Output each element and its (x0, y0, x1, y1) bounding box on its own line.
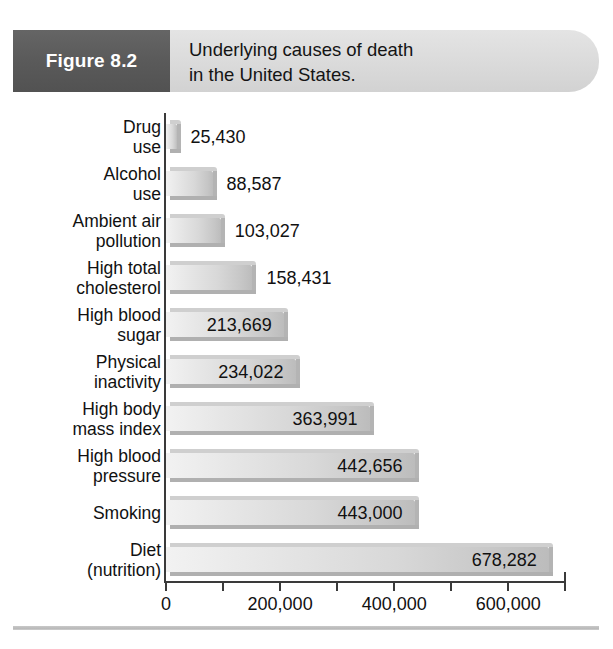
bar-shadow-face (170, 196, 217, 200)
bar-row: High totalcholesterol158,431 (0, 254, 613, 301)
category-label-line: cholesterol (0, 278, 161, 298)
bar-row: Physicalinactivity234,022 (0, 348, 613, 395)
category-label-line: pollution (0, 231, 161, 251)
bar-row: High bodymass index363,991 (0, 395, 613, 442)
category-label-line: Physical (0, 352, 161, 372)
bar-shadow-face (170, 525, 419, 529)
category-label-line: Drug (0, 117, 161, 137)
bar-row: Alcoholuse88,587 (0, 160, 613, 207)
bar-chart: Druguse25,430Alcoholuse88,587Ambient air… (0, 110, 613, 610)
figure-caption: Underlying causes of death in the United… (189, 37, 589, 87)
category-label: Smoking (0, 503, 161, 523)
bar-value-label: 442,656 (337, 455, 402, 476)
bar-shadow-face (170, 149, 181, 153)
bar-shadow-face (170, 243, 225, 247)
x-axis-tick-label: 0 (161, 594, 171, 615)
bar-body-face (166, 124, 177, 149)
bar[interactable] (166, 120, 181, 153)
category-label-line: Ambient air (0, 211, 161, 231)
bar-value-label: 25,430 (191, 126, 246, 147)
figure-caption-line-2: in the United States. (189, 62, 589, 87)
bar-row: Druguse25,430 (0, 113, 613, 160)
category-label: High bloodsugar (0, 305, 161, 345)
category-label: High totalcholesterol (0, 258, 161, 298)
figure-number-label: Figure 8.2 (46, 50, 138, 72)
category-label: Alcoholuse (0, 164, 161, 204)
x-axis-tick (222, 583, 224, 591)
bar-value-label: 234,022 (218, 361, 283, 382)
bar-value-label: 88,587 (227, 173, 282, 194)
x-axis-tick-label: 200,000 (248, 594, 313, 615)
x-axis-tick (507, 583, 509, 591)
x-axis-tick (336, 583, 338, 591)
figure-caption-line-1: Underlying causes of death (189, 37, 589, 62)
bar-body-face (166, 265, 252, 290)
bar-row: High bloodsugar213,669 (0, 301, 613, 348)
category-label-line: High blood (0, 305, 161, 325)
bottom-rule (13, 626, 599, 630)
category-label-line: Diet (0, 540, 161, 560)
bar-shadow-face (170, 431, 374, 435)
category-label-line: mass index (0, 419, 161, 439)
x-axis-tick-label: 400,000 (362, 594, 427, 615)
category-label-line: pressure (0, 466, 161, 486)
category-label: Druguse (0, 117, 161, 157)
bar-body-face (166, 171, 213, 196)
bar-shadow-face (170, 337, 288, 341)
bar-row: High bloodpressure442,656 (0, 442, 613, 489)
bar-value-label: 443,000 (338, 502, 403, 523)
bar-shadow-face (170, 478, 419, 482)
category-label-line: High body (0, 399, 161, 419)
bar-shadow-face (170, 572, 553, 576)
bar-shadow-face (170, 384, 300, 388)
bar-value-label: 158,431 (266, 267, 331, 288)
x-axis-tick (279, 583, 281, 591)
category-label-line: Smoking (0, 503, 161, 523)
x-axis-tick (450, 583, 452, 591)
x-axis-end-cap (564, 572, 566, 583)
category-label-line: inactivity (0, 372, 161, 392)
category-label-line: High blood (0, 446, 161, 466)
bar-value-label: 213,669 (207, 314, 272, 335)
bar-value-label: 363,991 (292, 408, 357, 429)
figure-header: Figure 8.2 Underlying causes of death in… (13, 30, 599, 92)
category-label: High bodymass index (0, 399, 161, 439)
bar-value-label: 103,027 (235, 220, 300, 241)
bar-body-face (166, 218, 221, 243)
category-label: Physicalinactivity (0, 352, 161, 392)
category-label-line: use (0, 184, 161, 204)
category-label: Ambient airpollution (0, 211, 161, 251)
category-label: High bloodpressure (0, 446, 161, 486)
category-label-line: (nutrition) (0, 560, 161, 580)
category-label-line: Alcohol (0, 164, 161, 184)
x-axis-tick (393, 583, 395, 591)
x-axis-tick (564, 583, 566, 591)
bar-row: Diet(nutrition)678,282 (0, 536, 613, 583)
bar-row: Ambient airpollution103,027 (0, 207, 613, 254)
bar[interactable] (166, 261, 256, 294)
bar-row: Smoking443,000 (0, 489, 613, 536)
bar-value-label: 678,282 (472, 549, 537, 570)
bar-shadow-face (170, 290, 256, 294)
category-label-line: High total (0, 258, 161, 278)
x-axis-tick-label: 600,000 (476, 594, 541, 615)
category-label-line: use (0, 137, 161, 157)
figure-number-box: Figure 8.2 (13, 30, 170, 92)
category-label-line: sugar (0, 325, 161, 345)
bar[interactable] (166, 167, 217, 200)
category-label: Diet(nutrition) (0, 540, 161, 580)
bar[interactable] (166, 214, 225, 247)
x-axis-tick (165, 583, 167, 591)
